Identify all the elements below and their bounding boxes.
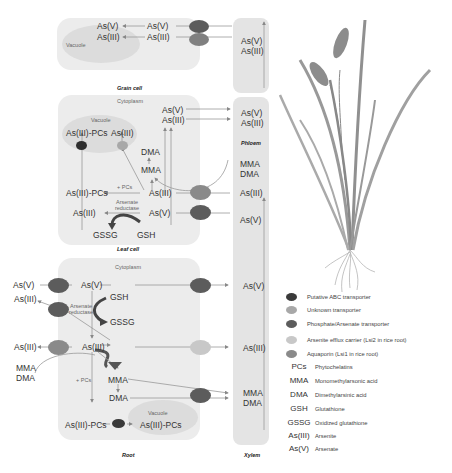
root-efflux-carrier: [190, 340, 211, 355]
panicle-icon: [306, 59, 332, 89]
leaf-arsenate-reductase: Arsenate reductase: [114, 199, 140, 211]
root-ext-mma: MMA: [16, 364, 36, 373]
root-aquaporin: [48, 340, 69, 355]
leaf-as3pcs: As(III)-PCs: [66, 189, 108, 198]
legend-item: Putative ABC transporter: [286, 293, 371, 301]
root-ext-as3: As(III): [14, 343, 37, 352]
root-as3pcs: As(III)-PCs: [65, 421, 107, 430]
rice-plant-illustration: [280, 20, 430, 292]
root-xylem-mma-transporter: [190, 388, 211, 403]
panicle-icon: [330, 26, 352, 60]
leaf-vac-as3: As(III): [111, 129, 134, 138]
legend-item: Unknown transporter: [286, 306, 361, 314]
root-arsenate-reductase: Arsenate reductase: [68, 303, 94, 315]
xylem-as5-mid: As(V): [243, 282, 264, 291]
root-gsh: GSH: [110, 293, 128, 302]
root-caption: Root: [122, 452, 135, 458]
leaf-dma: DMA: [141, 148, 160, 157]
leaf-phosphate-transporter: [190, 205, 211, 220]
leaf-vacuole-label: Vacuole: [91, 117, 110, 123]
root-xylem-as5-transporter: [190, 278, 211, 293]
phosphate-transporter-icon: [286, 320, 297, 328]
grain-vacuole-label: Vacuole: [66, 42, 85, 48]
root-phosphate-transporter-2: [48, 302, 69, 317]
phloem-bottom-as5: As(V): [241, 109, 262, 118]
grain-cyt-as3: As(III): [147, 33, 170, 42]
root-ext-dma: DMA: [16, 374, 35, 383]
abbr-item: As(III) Arsenite: [283, 431, 336, 440]
root-ext-as5: As(V): [13, 281, 34, 290]
leaf-pcs: + PCs: [117, 184, 132, 190]
phloem-top-as3: As(III): [241, 47, 264, 56]
grain-vac-as5: As(V): [97, 22, 118, 31]
root-gssg: GSSG: [110, 318, 135, 327]
xylem-caption: Xylem: [244, 452, 260, 458]
leaf-as3-mid: As(III): [149, 189, 172, 198]
root-phosphate-transporter: [48, 278, 69, 293]
leaf-aquaporin: [190, 185, 211, 200]
grain-vac-as3: As(III): [97, 33, 120, 42]
legend-label: Putative ABC transporter: [307, 294, 371, 300]
abbr-item: DMA Dimethylarsinic acid: [283, 390, 367, 399]
leaf-cell-caption: Leaf cell: [117, 246, 139, 252]
xylem-dma-low: DMA: [243, 399, 262, 408]
xylem-as5-top: As(V): [240, 216, 261, 225]
abc-transporter-icon: [286, 293, 297, 301]
root-vacuole-label: Vacuole: [148, 410, 167, 416]
leaf-vac-unknown-transporter: [117, 141, 128, 150]
root-dma: DMA: [109, 394, 128, 403]
grain-cell-caption: Grain cell: [117, 85, 142, 91]
leaf-as3-low: As(III): [73, 209, 96, 218]
legend-label: Unknown transporter: [307, 307, 361, 313]
root-mma: MMA: [108, 376, 128, 385]
leaf-gsh: GSH: [137, 231, 155, 240]
xylem-mma-low: MMA: [243, 389, 263, 398]
unknown-transporter-icon: [286, 306, 297, 314]
legend-item: Phosphate/Arsenate transporter: [286, 320, 389, 328]
xylem-dma: DMA: [240, 170, 259, 179]
grain-abc-transporter: [189, 20, 209, 33]
grain-unknown-transporter: [189, 33, 209, 46]
leaf-as5-low: As(V): [149, 209, 170, 218]
root-cytoplasm-label: Cytoplasm: [115, 264, 141, 270]
phloem-bottom-as3: As(III): [241, 119, 264, 128]
leaf-as5-top: As(V): [162, 106, 183, 115]
root-vac-as3pcs: As(III)-PCs: [140, 421, 182, 430]
leaf-vac-abc-transporter: [76, 141, 87, 150]
phloem-caption: Phloem: [241, 140, 261, 146]
leaf-gssg: GSSG: [93, 231, 118, 240]
root-as5: As(V): [81, 281, 102, 290]
leaf-as3-top: As(III): [162, 116, 185, 125]
efflux-carrier-icon: [286, 336, 297, 344]
legend-label: Phosphate/Arsenate transporter: [307, 321, 389, 327]
phloem-top-as5: As(V): [241, 37, 262, 46]
legend-item: Arsenite efflux carrier (Lsi2 in rice ro…: [286, 336, 406, 344]
root-as3: As(III): [82, 343, 105, 352]
leaf-cytoplasm-label: Cytoplasm: [117, 98, 143, 104]
abbr-item: MMA Monomethylarsonic acid: [283, 376, 378, 385]
leaf-mma: MMA: [141, 166, 161, 175]
root-ext-as3-top: As(III): [14, 295, 37, 304]
leaf-vac-as3pcs: As(III)-PCs: [66, 129, 108, 138]
legend-label: Arsenite efflux carrier (Lsi2 in rice ro…: [307, 337, 406, 343]
pathway-arrows: [0, 0, 452, 473]
xylem-as3-top: As(III): [240, 189, 263, 198]
abbr-item: As(V) Arsenate: [283, 444, 338, 453]
xylem-mma: MMA: [240, 160, 260, 169]
xylem-as3-mid: As(III): [243, 344, 266, 353]
root-vac-abc-transporter: [112, 419, 125, 428]
abbr-item: PCs Phytochelatins: [283, 362, 353, 371]
legend-item: Aquaporin (Lsi1 in rice root): [286, 350, 378, 358]
grain-cyt-as5: As(V): [147, 22, 168, 31]
root-pcs: + PCs: [76, 377, 91, 383]
abbr-item: GSSG Oxidized glutathione: [283, 418, 368, 427]
aquaporin-icon: [286, 350, 297, 358]
legend-label: Aquaporin (Lsi1 in rice root): [307, 351, 378, 357]
abbr-item: GSH Glutathione: [283, 404, 345, 413]
